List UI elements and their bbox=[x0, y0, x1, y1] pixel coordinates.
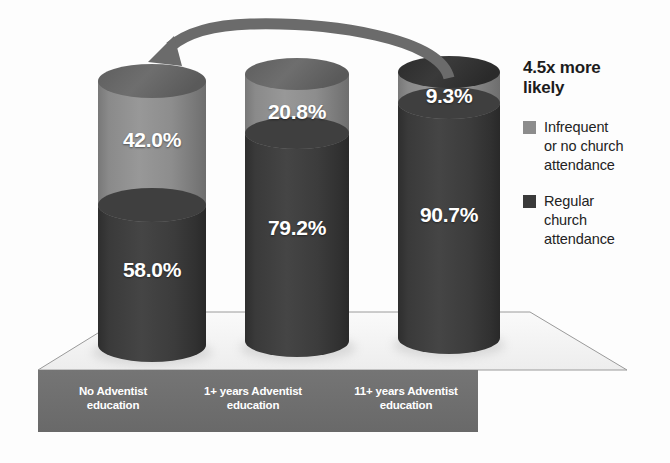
bar-1-segment-regular bbox=[245, 133, 349, 357]
bar-0-segment-divider bbox=[98, 188, 206, 222]
category-label-0: No Adventist education bbox=[48, 384, 178, 412]
legend-title: 4.5x more likely bbox=[523, 58, 663, 98]
bar-cylinder-2[interactable] bbox=[398, 56, 500, 354]
legend-swatch-regular-icon bbox=[523, 195, 536, 208]
bar-1-top-cap bbox=[245, 58, 349, 90]
bar-cylinder-1[interactable] bbox=[245, 58, 349, 357]
bar-0-segment-regular bbox=[98, 205, 206, 362]
legend-swatch-infrequent-icon bbox=[523, 121, 536, 134]
bar-2-segment-regular bbox=[398, 103, 500, 354]
legend: 4.5x more likely Infrequent or no church… bbox=[523, 58, 663, 266]
category-label-1: 1+ years Adventist education bbox=[178, 384, 328, 412]
legend-item-infrequent[interactable]: Infrequent or no church attendance bbox=[523, 118, 663, 175]
chart-container: 42.0% 58.0% 20.8% 79.2% 9.3% 90.7% No Ad… bbox=[0, 0, 670, 463]
legend-label-infrequent: Infrequent or no church attendance bbox=[544, 118, 623, 175]
bar-cylinder-0[interactable] bbox=[98, 64, 206, 362]
bar-2-segment-divider bbox=[398, 87, 500, 119]
category-label-2: 11+ years Adventist education bbox=[330, 384, 482, 412]
legend-item-regular[interactable]: Regular church attendance bbox=[523, 192, 663, 249]
bar-0-top-cap bbox=[98, 64, 206, 98]
legend-label-regular: Regular church attendance bbox=[544, 192, 615, 249]
bar-1-segment-divider bbox=[245, 117, 349, 149]
